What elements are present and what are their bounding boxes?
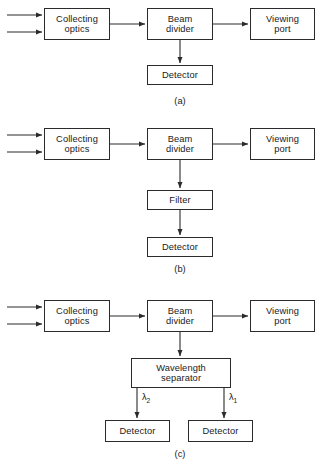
- lambda-1-label: λ1: [229, 392, 237, 404]
- viewing-port-box-c: Viewing port: [250, 300, 315, 332]
- panel-caption-b: (b): [150, 264, 210, 274]
- viewing-port-line2-a: port: [274, 24, 290, 34]
- detector-label-c-left: Detector: [118, 426, 158, 436]
- collecting-optics-label-a: Collecting optics: [54, 14, 100, 35]
- viewing-port-label-c: Viewing port: [264, 306, 301, 327]
- beam-divider-label-a: Beam divider: [164, 14, 196, 35]
- collecting-optics-line2-c: optics: [65, 316, 90, 326]
- beam-divider-line2-a: divider: [166, 24, 194, 34]
- beam-divider-line1-b: Beam: [168, 134, 193, 144]
- detector-box-c-left: Detector: [105, 420, 170, 442]
- collecting-optics-line2-b: optics: [65, 144, 90, 154]
- wavelength-separator-line2-c: separator: [161, 373, 201, 383]
- collecting-optics-line2-a: optics: [65, 24, 90, 34]
- wavelength-separator-label-c: Wavelength separator: [154, 363, 208, 384]
- detector-label-a: Detector: [160, 70, 200, 80]
- beam-divider-box-c: Beam divider: [147, 300, 213, 332]
- filter-label-b: Filter: [167, 195, 192, 205]
- collecting-optics-line1-c: Collecting: [56, 306, 98, 316]
- viewing-port-label-a: Viewing port: [264, 14, 301, 35]
- wavelength-separator-line1-c: Wavelength: [156, 363, 206, 373]
- collecting-optics-line1-b: Collecting: [56, 134, 98, 144]
- filter-box-b: Filter: [147, 190, 213, 210]
- collecting-optics-line1-a: Collecting: [56, 14, 98, 24]
- viewing-port-box-b: Viewing port: [250, 128, 315, 160]
- viewing-port-line1-a: Viewing: [266, 14, 299, 24]
- detector-label-b: Detector: [160, 242, 200, 252]
- beam-divider-label-b: Beam divider: [164, 134, 196, 155]
- lambda-2-subscript: 2: [147, 397, 151, 404]
- beam-divider-label-c: Beam divider: [164, 306, 196, 327]
- detector-label-c-right: Detector: [201, 426, 241, 436]
- viewing-port-line1-b: Viewing: [266, 134, 299, 144]
- viewing-port-box-a: Viewing port: [250, 8, 315, 40]
- collecting-optics-label-c: Collecting optics: [54, 306, 100, 327]
- viewing-port-line1-c: Viewing: [266, 306, 299, 316]
- collecting-optics-box-c: Collecting optics: [44, 300, 110, 332]
- detector-box-c-right: Detector: [188, 420, 253, 442]
- detector-box-a: Detector: [147, 65, 213, 85]
- beam-divider-line1-c: Beam: [168, 306, 193, 316]
- diagram-canvas: Collecting optics Beam divider Viewing p…: [0, 0, 325, 471]
- beam-divider-line1-a: Beam: [168, 14, 193, 24]
- panel-caption-c: (c): [150, 449, 210, 459]
- collecting-optics-label-b: Collecting optics: [54, 134, 100, 155]
- collecting-optics-box-b: Collecting optics: [44, 128, 110, 160]
- lambda-2-label: λ2: [142, 392, 150, 404]
- beam-divider-line2-b: divider: [166, 144, 194, 154]
- collecting-optics-box-a: Collecting optics: [44, 8, 110, 40]
- lambda-1-subscript: 1: [234, 397, 238, 404]
- viewing-port-line2-b: port: [274, 144, 290, 154]
- beam-divider-box-a: Beam divider: [147, 8, 213, 40]
- viewing-port-label-b: Viewing port: [264, 134, 301, 155]
- panel-caption-a: (a): [150, 96, 210, 106]
- wavelength-separator-box-c: Wavelength separator: [131, 358, 231, 388]
- beam-divider-line2-c: divider: [166, 316, 194, 326]
- detector-box-b: Detector: [147, 237, 213, 257]
- viewing-port-line2-c: port: [274, 316, 290, 326]
- beam-divider-box-b: Beam divider: [147, 128, 213, 160]
